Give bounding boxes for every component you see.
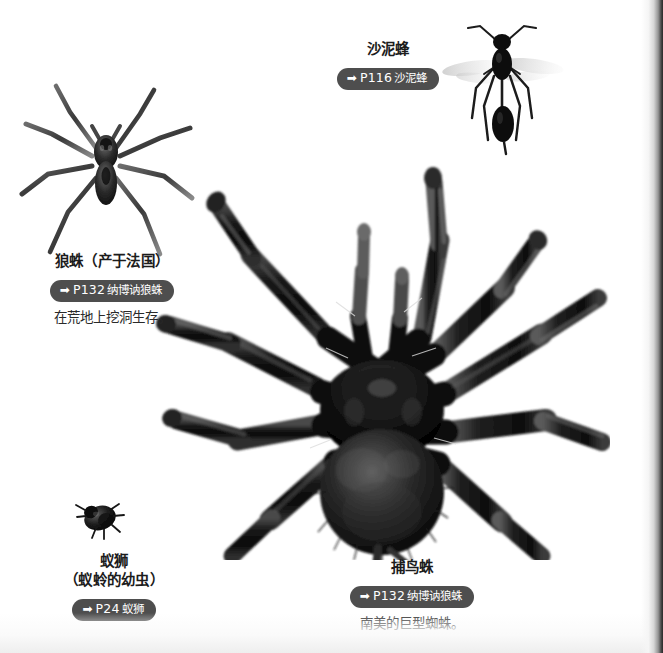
antlion-photo <box>72 498 132 548</box>
caption-subtitle-antlion: （蚁蛉的幼虫） <box>14 571 214 590</box>
ref-page-number: P132 <box>73 282 105 297</box>
wolf-spider-photo <box>18 82 198 262</box>
arrow-icon: ➡ <box>60 283 70 297</box>
ref-entry-name: 纳博讷狼蛛 <box>107 283 162 297</box>
ref-entry-name: 纳博讷狼蛛 <box>407 589 462 603</box>
arrow-icon: ➡ <box>347 71 357 85</box>
page-bottom-shadow <box>0 613 663 653</box>
caption-wolf-spider: 狼蛛（产于法国） ➡P132纳博讷狼蛛 在荒地上挖洞生存。 <box>12 252 212 327</box>
ref-entry-name: 沙泥蜂 <box>394 71 427 85</box>
ref-pill-sand-wasp[interactable]: ➡P116沙泥蜂 <box>337 68 439 90</box>
ref-page-number: P116 <box>360 70 392 85</box>
caption-title-bird-eating-spider: 捕鸟蛛 <box>312 558 512 577</box>
ref-pill-wolf-spider[interactable]: ➡P132纳博讷狼蛛 <box>50 280 174 302</box>
ref-page-number: P132 <box>373 588 405 603</box>
ref-pill-bird-eating-spider[interactable]: ➡P132纳博讷狼蛛 <box>350 586 474 608</box>
caption-desc-wolf-spider: 在荒地上挖洞生存。 <box>12 309 212 327</box>
book-page: 沙泥蜂 ➡P116沙泥蜂 狼蛛（产于法国） ➡P132纳博讷狼蛛 在荒地上挖洞生… <box>0 0 663 653</box>
caption-sand-wasp: 沙泥蜂 ➡P116沙泥蜂 <box>288 40 488 90</box>
page-right-edge <box>641 0 663 653</box>
caption-title-sand-wasp: 沙泥蜂 <box>288 40 488 59</box>
caption-title-antlion: 蚁狮 <box>14 552 214 571</box>
caption-antlion: 蚁狮 （蚁蛉的幼虫） ➡P24蚁狮 <box>14 552 214 621</box>
tarantula-photo <box>150 120 610 560</box>
arrow-icon: ➡ <box>360 589 370 603</box>
caption-title-wolf-spider: 狼蛛（产于法国） <box>12 252 212 271</box>
